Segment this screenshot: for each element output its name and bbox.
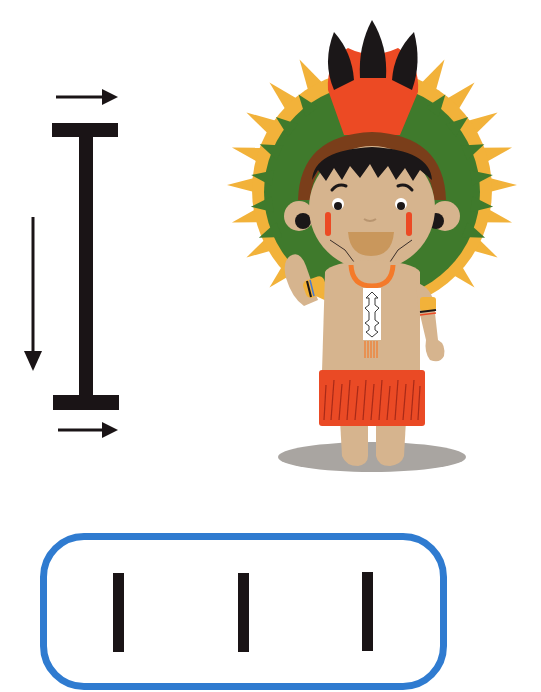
stroke-order-diagram: [0, 70, 150, 450]
character-illustration: [220, 20, 520, 480]
practice-stroke-3: [362, 572, 373, 651]
letter-i-stroke-diagram: [0, 70, 150, 450]
right-arm: [416, 282, 444, 361]
arrow-right-icon: [56, 89, 118, 105]
arrow-down-icon: [24, 217, 42, 371]
face-paint-left: [325, 212, 331, 236]
face-paint-right: [406, 212, 412, 236]
headdress-top-feathers: [328, 20, 418, 135]
arrow-right-icon: [58, 422, 118, 438]
practice-stroke-1: [113, 573, 124, 652]
earring-left-icon: [295, 213, 311, 229]
leg-right: [376, 420, 406, 466]
practice-stroke-2: [238, 573, 249, 652]
leg-left: [340, 420, 368, 466]
letter-i-shape: [52, 123, 119, 410]
ground-shadow: [278, 442, 466, 472]
grass-skirt: [319, 370, 425, 426]
